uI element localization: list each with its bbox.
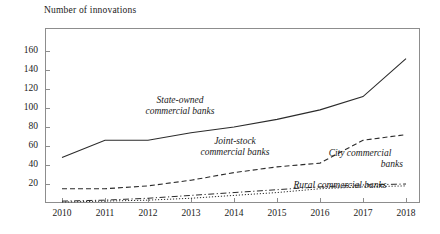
annotation-rural-line1: Rural commercial banks <box>265 180 415 192</box>
annotation-state-owned-line1: State-owned <box>120 95 240 107</box>
annotation-state-owned-line2: commercial banks <box>120 106 240 118</box>
annotation-joint-stock-line1: Joint-stock <box>175 136 295 148</box>
annotation-city-line1: City commercial <box>305 148 415 160</box>
annotation-joint-stock-line2: commercial banks <box>175 147 295 159</box>
annotation-city-line2: banks <box>305 159 403 171</box>
chart-container: Number of innovations 160 140 120 100 80… <box>0 0 440 234</box>
